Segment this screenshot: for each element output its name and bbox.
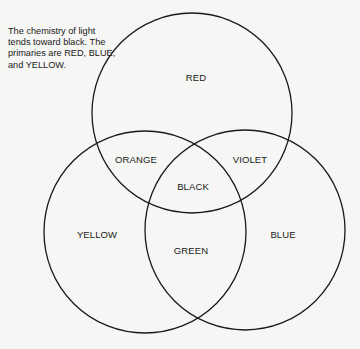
black-label: BLACK [177, 181, 209, 192]
venn-diagram [0, 0, 360, 349]
blue-label: BLUE [270, 229, 295, 240]
yellow-label: YELLOW [77, 229, 117, 240]
green-label: GREEN [174, 245, 208, 256]
orange-label: ORANGE [115, 154, 157, 165]
red-label: RED [186, 72, 206, 83]
violet-label: VIOLET [233, 154, 267, 165]
